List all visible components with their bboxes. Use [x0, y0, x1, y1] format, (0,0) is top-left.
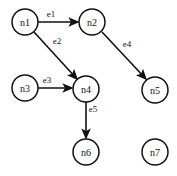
edge-e5[interactable]: e5	[86, 102, 98, 138]
node-label-n7: n7	[150, 147, 160, 158]
edge-label-e2: e2	[53, 36, 62, 46]
node-label-n1: n1	[20, 17, 30, 28]
node-n5[interactable]: n5	[142, 77, 168, 103]
graph-svg: e1e2e3e4e5 n1n2n3n4n5n6n7	[0, 0, 177, 176]
edge-e4[interactable]: e4	[102, 32, 146, 79]
graph-canvas: e1e2e3e4e5 n1n2n3n4n5n6n7	[0, 0, 177, 176]
node-n1[interactable]: n1	[12, 9, 38, 35]
node-n7[interactable]: n7	[142, 139, 168, 165]
edge-label-e1: e1	[47, 9, 56, 19]
edge-label-e4: e4	[123, 39, 132, 49]
edge-label-e5: e5	[89, 104, 98, 114]
edge-e1[interactable]: e1	[38, 9, 78, 22]
node-label-n4: n4	[81, 84, 91, 95]
node-label-n2: n2	[87, 17, 97, 28]
node-label-n3: n3	[20, 83, 30, 94]
edge-label-e3: e3	[43, 75, 52, 85]
node-n6[interactable]: n6	[73, 139, 99, 165]
node-label-n6: n6	[81, 147, 91, 158]
node-n4[interactable]: n4	[73, 76, 99, 102]
edge-e2[interactable]: e2	[34, 32, 77, 79]
node-label-n5: n5	[150, 85, 160, 96]
node-n3[interactable]: n3	[12, 75, 38, 101]
edge-e3[interactable]: e3	[38, 75, 72, 88]
node-n2[interactable]: n2	[79, 9, 105, 35]
